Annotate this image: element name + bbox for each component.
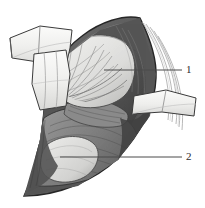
callout-1-label: 1 — [186, 64, 192, 75]
figure-root: 1 2 — [0, 0, 205, 208]
surgical-illustration — [0, 0, 205, 208]
left-retractor-blade — [32, 50, 70, 110]
callout-2-label: 2 — [186, 151, 192, 162]
